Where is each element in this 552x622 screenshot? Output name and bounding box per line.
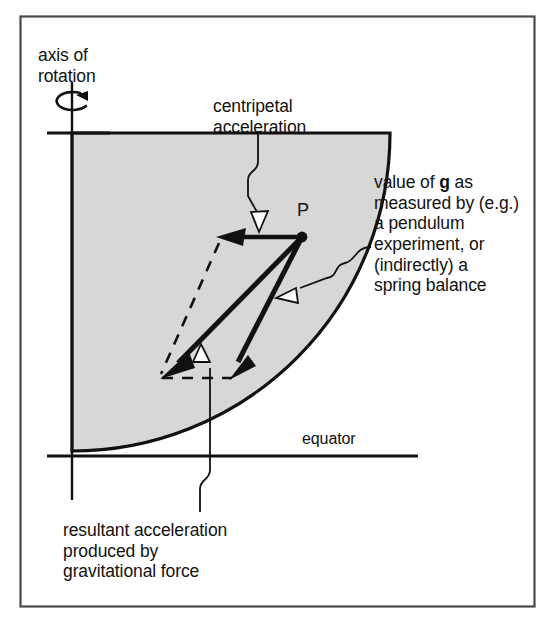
label-value-of-g-tail: as (450, 172, 473, 192)
label-value-of-g: value of g as measured by (e.g.) a pendu… (374, 172, 519, 296)
earth-fill (72, 133, 390, 451)
label-resultant-acceleration: resultant acceleration produced by gravi… (63, 520, 227, 582)
label-centripetal-acceleration: centripetal acceleration (213, 96, 306, 137)
label-value-of-g-lead: value of (374, 172, 439, 192)
earth-quadrant (72, 133, 390, 451)
label-equator: equator (300, 430, 358, 449)
label-point-p: P (297, 200, 309, 221)
point-p-marker (297, 232, 308, 243)
label-value-of-g-symbol: g (439, 172, 450, 192)
figure-root: axis of rotation centripetal acceleratio… (0, 0, 552, 622)
label-axis-of-rotation: axis of rotation (38, 45, 96, 86)
label-value-of-g-rest: measured by (e.g.) a pendulum experiment… (374, 193, 519, 296)
